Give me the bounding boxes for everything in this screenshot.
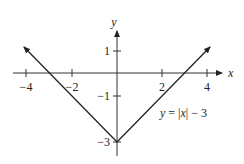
x-tick-label: 4 [204,80,210,94]
equation-label: y = |x| − 3 [159,106,207,120]
x-tick-label: −4 [20,80,33,94]
x-axis-label: x [227,66,234,80]
abs-value-curve [117,47,210,142]
y-tick-label: 1 [104,44,110,58]
y-tick-label: −3 [97,135,110,149]
x-tick-label: 2 [159,80,165,94]
graph: −4 −2 2 4 1 −1 −3 x y y = |x| − 3 [0,0,244,164]
y-tick-label: −1 [97,89,110,103]
y-axis-label: y [110,15,117,29]
